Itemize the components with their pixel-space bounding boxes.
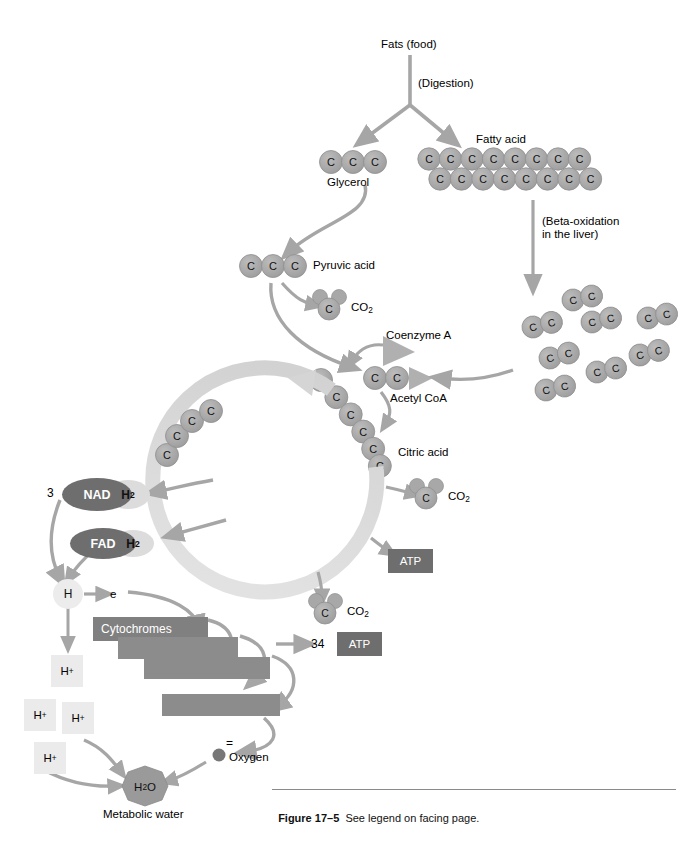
svg-text:C: C <box>425 153 433 165</box>
label-citric-acid: Citric acid <box>398 446 448 459</box>
label-beta-oxidation: (Beta-oxidation in the liver) <box>542 215 619 241</box>
nad-count: 3 <box>47 487 54 500</box>
co2-molecule-1: C <box>313 290 347 321</box>
cytochromes-label: Cytochromes <box>101 622 172 636</box>
hplus-ion-4: H+ <box>34 742 66 774</box>
nad-h2-complex: NAD H2 <box>62 478 154 511</box>
hplus-ion-3: H+ <box>62 702 94 734</box>
atp-box-cycle: ATP <box>388 549 433 573</box>
arrow-pyruvate-to-co2 <box>282 283 315 305</box>
label-digestion: (Digestion) <box>418 77 474 90</box>
figure-caption-text: See legend on facing page. <box>345 812 479 824</box>
four-carbon-molecule: CCCC <box>156 400 223 467</box>
h2-label-nad: H2 <box>106 480 150 509</box>
svg-text:C: C <box>458 173 466 185</box>
svg-text:C: C <box>576 153 584 165</box>
krebs-cycle-ring <box>129 344 401 616</box>
atp-label-2: ATP <box>349 638 371 650</box>
atp-count-etc: 34 <box>311 638 324 651</box>
label-co2-1: CO2 <box>351 301 373 317</box>
svg-text:C: C <box>565 173 573 185</box>
svg-text:C: C <box>468 153 476 165</box>
oxygen-molecule <box>213 749 226 762</box>
svg-text:C: C <box>347 409 355 421</box>
svg-text:C: C <box>587 173 595 185</box>
cytochrome-bar-2 <box>118 637 238 659</box>
arrow-cycle-to-fad <box>172 520 226 535</box>
acetyl-coa-molecule: C C <box>364 367 434 391</box>
atp-label-1: ATP <box>400 555 422 567</box>
svg-text:C: C <box>349 156 357 168</box>
fatty-acid-molecule: CCCCCCCC CCCCCCCC <box>418 148 602 190</box>
svg-text:C: C <box>188 415 196 427</box>
svg-text:C: C <box>436 173 444 185</box>
arrow-fragments-to-acetylcoa <box>440 370 513 380</box>
svg-text:C: C <box>291 260 299 272</box>
atp-box-etc: ATP <box>337 632 382 656</box>
co2-molecule-3: C <box>309 594 343 625</box>
svg-text:C: C <box>490 153 498 165</box>
arrow-cytochrome-to-oxygen <box>245 718 274 752</box>
svg-text:C: C <box>327 156 335 168</box>
svg-text:C: C <box>247 260 255 272</box>
arrow-glycerol-to-pyruvate <box>289 185 366 252</box>
fats-digestion-arrows <box>363 55 452 140</box>
label-fatty-acid: Fatty acid <box>476 133 526 146</box>
svg-text:C: C <box>173 430 181 442</box>
svg-text:C: C <box>511 153 519 165</box>
figure-number: Figure 17–5 <box>278 812 339 824</box>
caption-rule <box>272 789 676 790</box>
electron-label: e <box>110 588 116 601</box>
arrow-acetylcoa-to-citrate <box>381 392 390 425</box>
two-carbon-fragments: CCCCCCCCCCCCCCCC <box>520 283 680 403</box>
pyruvic-acid-molecule: C C C <box>240 255 307 278</box>
svg-text:C: C <box>371 372 379 384</box>
svg-text:C: C <box>554 153 562 165</box>
svg-text:C: C <box>479 173 487 185</box>
hplus-ion-1: H+ <box>51 655 83 687</box>
svg-text:C: C <box>447 153 455 165</box>
svg-text:C: C <box>207 405 215 417</box>
fad-h2-complex: FAD H2 <box>70 528 162 559</box>
label-acetyl-coa: Acetyl CoA <box>390 392 447 405</box>
hplus-ion-2: H+ <box>24 699 56 731</box>
label-fats: Fats (food) <box>381 38 437 51</box>
hydrogen-atom: H <box>53 579 83 609</box>
svg-text:C: C <box>371 156 379 168</box>
arrow-cycle-to-nad <box>155 480 213 492</box>
label-pyruvic-acid: Pyruvic acid <box>313 259 375 272</box>
svg-text:C: C <box>522 173 530 185</box>
svg-text:C: C <box>393 372 401 384</box>
cytochrome-bar-4 <box>162 694 280 716</box>
label-co2-3: CO2 <box>347 605 369 621</box>
figure-canvas: C C C CCCCCCCC CCCCCCCC C C C C C <box>0 0 687 850</box>
metabolism-diagram: C C C CCCCCCCC CCCCCCCC C C C C C <box>0 0 687 850</box>
label-co2-2: CO2 <box>448 490 470 506</box>
svg-text:C: C <box>501 173 509 185</box>
arrow-oxygen-to-water <box>168 762 206 781</box>
svg-text:C: C <box>325 303 333 315</box>
svg-text:C: C <box>163 449 171 461</box>
label-coenzyme-a: Coenzyme A <box>386 329 451 342</box>
arrow-hplus-to-water-1 <box>84 740 121 772</box>
label-oxygen: Oxygen <box>229 751 269 764</box>
cytochrome-bar-3 <box>144 657 270 679</box>
svg-text:C: C <box>422 492 430 504</box>
label-metabolic-water: Metabolic water <box>103 808 184 821</box>
svg-text:C: C <box>332 391 340 403</box>
h2-label-fad: H2 <box>112 530 154 557</box>
arrow-coa-join <box>351 345 383 362</box>
label-glycerol: Glycerol <box>327 176 369 189</box>
glycerol-molecule: C C C <box>320 151 387 174</box>
arrow-nad-to-h <box>51 500 60 578</box>
oxygen-bond-marks: = <box>226 737 233 750</box>
co2-molecule-2: C <box>410 479 444 510</box>
water-label: H2O <box>122 778 168 796</box>
h-label: H <box>64 587 73 601</box>
figure-caption: Figure 17–5 See legend on facing page. <box>272 800 479 824</box>
svg-text:C: C <box>359 426 367 438</box>
svg-text:C: C <box>269 260 277 272</box>
svg-text:C: C <box>321 607 329 619</box>
svg-text:C: C <box>544 173 552 185</box>
svg-text:C: C <box>533 153 541 165</box>
